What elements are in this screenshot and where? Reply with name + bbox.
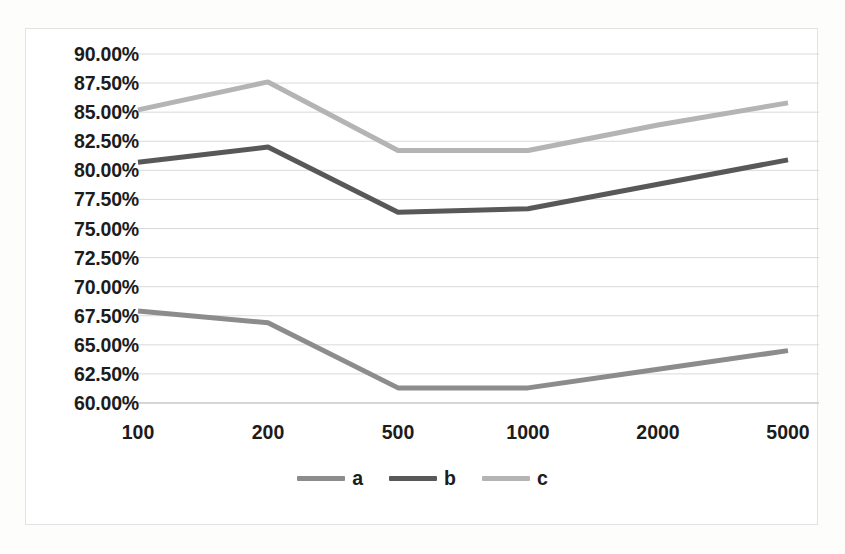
- legend-item-b[interactable]: b: [389, 469, 456, 489]
- chart-frame: 90.00%87.50%85.00%82.50%80.00%77.50%75.0…: [25, 28, 818, 525]
- y-axis-tick-label: 70.00%: [19, 275, 139, 298]
- y-axis-tick-label: 87.50%: [19, 72, 139, 95]
- legend-swatch-b: [389, 476, 437, 481]
- y-axis-tick-label: 72.50%: [19, 246, 139, 269]
- chart-plot-area: 90.00%87.50%85.00%82.50%80.00%77.50%75.0…: [26, 29, 819, 526]
- y-axis-tick-label: 60.00%: [19, 392, 139, 415]
- x-axis-tick-label: 100: [122, 421, 155, 444]
- y-axis-tick-label: 85.00%: [19, 101, 139, 124]
- x-axis-tick-label: 2000: [636, 421, 679, 444]
- y-axis-tick-label: 82.50%: [19, 130, 139, 153]
- series-line-b: [138, 147, 788, 212]
- y-axis-tick-label: 75.00%: [19, 217, 139, 240]
- legend-item-a[interactable]: a: [297, 469, 363, 489]
- y-axis-tick-label: 67.50%: [19, 304, 139, 327]
- y-axis-tick-label: 90.00%: [19, 43, 139, 66]
- x-axis-tick-label: 500: [382, 421, 415, 444]
- legend-swatch-a: [297, 476, 345, 481]
- y-axis-tick-label: 80.00%: [19, 159, 139, 182]
- y-axis-tick-label: 77.50%: [19, 188, 139, 211]
- x-axis-tick-label: 1000: [506, 421, 549, 444]
- legend-swatch-c: [482, 476, 530, 481]
- chart-series-layer: [26, 29, 819, 526]
- series-line-c: [138, 82, 788, 151]
- legend-label-c: c: [537, 469, 548, 489]
- x-axis-tick-label: 200: [252, 421, 285, 444]
- legend-label-b: b: [444, 469, 456, 489]
- y-axis-tick-label: 65.00%: [19, 333, 139, 356]
- x-axis-tick-label: 5000: [766, 421, 809, 444]
- legend-label-a: a: [352, 469, 363, 489]
- series-line-a: [138, 311, 788, 388]
- chart-legend: abc: [26, 469, 819, 489]
- legend-item-c[interactable]: c: [482, 469, 548, 489]
- y-axis-tick-label: 62.50%: [19, 362, 139, 385]
